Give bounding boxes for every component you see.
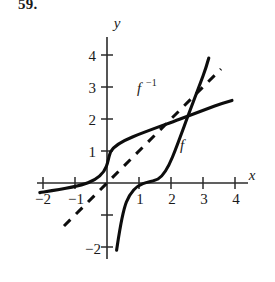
x-tick-labels: −2 −1 1 2 3 4 (35, 191, 240, 207)
curve-label-f: f (180, 137, 186, 153)
graph-canvas: −2 −1 1 2 3 4 4 3 2 1 −2 x y f −1 f (0, 0, 275, 282)
y-tick-labels: 4 3 2 1 −2 (85, 48, 101, 257)
y-tick-label--2: −2 (85, 241, 101, 257)
x-axis-label: x (248, 167, 256, 183)
x-tick-label-4: 4 (232, 191, 240, 207)
curve-f (117, 58, 209, 250)
x-tick-label-1: 1 (136, 191, 144, 207)
x-tick-label--1: −1 (68, 191, 84, 207)
y-tick-label-1: 1 (89, 144, 97, 160)
curve-label-f-inverse-group: f −1 (137, 77, 157, 96)
curve-label-f-inverse: f (137, 80, 143, 96)
y-axis-label: y (112, 15, 121, 31)
y-tick-label-4: 4 (89, 48, 97, 64)
x-tick-label-2: 2 (168, 191, 176, 207)
figure-root: 59. −2 −1 1 2 (0, 0, 275, 282)
y-tick-label-3: 3 (89, 80, 97, 96)
x-tick-label-3: 3 (200, 191, 208, 207)
y-tick-label-2: 2 (89, 112, 97, 128)
curve-label-f-inverse-superscript: −1 (146, 77, 157, 88)
